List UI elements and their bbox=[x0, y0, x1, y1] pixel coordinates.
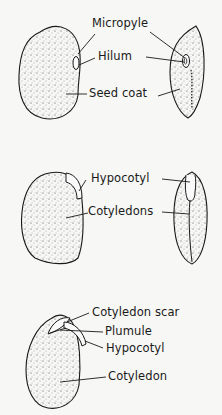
label-hilum: Hilum bbox=[98, 51, 132, 63]
label-micropyle: Micropyle bbox=[92, 18, 148, 30]
label-cotyledon: Cotyledon bbox=[108, 371, 167, 383]
label-hypocotyl-panel-3: Hypocotyl bbox=[106, 343, 165, 355]
label-cotyledons: Cotyledons bbox=[88, 206, 153, 218]
embryo-side-view bbox=[22, 172, 83, 263]
hilum-side-shape bbox=[73, 57, 79, 70]
label-plumule: Plumule bbox=[105, 326, 152, 338]
opened-cotyledon bbox=[26, 315, 86, 408]
label-cotyledon-scar: Cotyledon scar bbox=[92, 307, 179, 319]
embryo-edge-view bbox=[174, 172, 207, 264]
label-hypocotyl-panel-2: Hypocotyl bbox=[91, 173, 150, 185]
label-seed-coat: Seed coat bbox=[89, 88, 147, 100]
seed-side-view bbox=[19, 27, 80, 119]
seed-edge-view bbox=[170, 26, 204, 118]
